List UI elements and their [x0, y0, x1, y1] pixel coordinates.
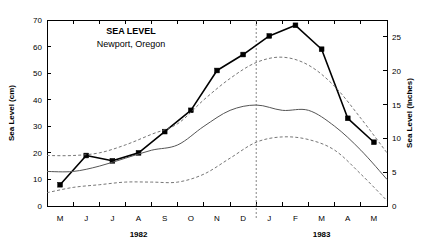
right-tick-label: 5: [392, 168, 397, 177]
bottom-axis-ticks: MJJASONDJFMAM: [47, 202, 387, 223]
left-tick-label: 10: [33, 175, 42, 184]
y-axis-left-title: Sea Level (cm): [7, 85, 16, 141]
data-point-marker: [215, 68, 220, 73]
data-point-marker: [241, 52, 246, 57]
left-tick-label: 70: [33, 16, 42, 25]
chart-title: SEA LEVEL: [106, 26, 156, 36]
year-label: 1982: [130, 230, 148, 239]
month-tick-label: M: [318, 214, 325, 223]
right-tick-label: 0: [392, 202, 397, 211]
data-point-marker: [293, 23, 298, 28]
left-tick-label: 40: [33, 96, 42, 105]
chart-canvas: 010203040506070 0510152025 MJJASONDJFMAM…: [0, 0, 425, 247]
right-axis-ticks: 0510152025: [383, 33, 401, 211]
data-point-marker: [372, 140, 377, 145]
left-tick-label: 30: [33, 122, 42, 131]
sea-level-chart: 010203040506070 0510152025 MJJASONDJFMAM…: [0, 0, 425, 247]
month-tick-label: S: [162, 214, 167, 223]
chart-subtitle: Newport, Oregon: [97, 39, 166, 49]
top-axis-ticks: [47, 20, 387, 24]
month-tick-label: N: [214, 214, 220, 223]
left-tick-label: 20: [33, 149, 42, 158]
right-tick-label: 25: [392, 33, 401, 42]
right-tick-label: 15: [392, 101, 401, 110]
month-tick-label: F: [293, 214, 298, 223]
right-tick-label: 20: [392, 67, 401, 76]
month-tick-label: O: [188, 214, 194, 223]
left-tick-label: 0: [38, 202, 43, 211]
month-tick-label: M: [57, 214, 64, 223]
year-labels: 19821983: [130, 230, 331, 239]
left-axis-ticks: 010203040506070: [33, 16, 51, 211]
month-tick-label: J: [84, 214, 88, 223]
series-line-1: [47, 105, 387, 179]
left-tick-label: 60: [33, 43, 42, 52]
left-tick-label: 50: [33, 69, 42, 78]
month-tick-label: J: [267, 214, 271, 223]
month-tick-label: J: [110, 214, 114, 223]
y-axis-right-title: Sea Level (Inches): [405, 78, 414, 148]
month-tick-label: A: [136, 214, 142, 223]
month-tick-label: D: [240, 214, 246, 223]
right-tick-label: 10: [392, 134, 401, 143]
data-series-layer: [47, 23, 387, 201]
data-point-marker: [58, 182, 63, 187]
data-point-marker: [267, 34, 272, 39]
series-line-3: [47, 137, 387, 201]
data-point-marker: [345, 116, 350, 121]
data-point-marker: [319, 47, 324, 52]
series-line-0: [60, 25, 374, 184]
year-label: 1983: [313, 230, 331, 239]
month-tick-label: A: [345, 214, 351, 223]
data-point-marker: [84, 153, 89, 158]
month-tick-label: M: [371, 214, 378, 223]
